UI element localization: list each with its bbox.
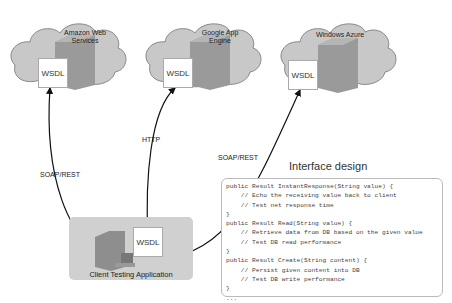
code-line: } [226, 247, 438, 256]
code-line: ... [226, 294, 438, 303]
wsdl-document-azure: WSDL [288, 60, 318, 90]
wsdl-document-google: WSDL [163, 58, 193, 88]
code-line: public Result Read(String value) { [226, 219, 438, 228]
wsdl-label: WSDL [291, 71, 314, 80]
wsdl-label: WSDL [41, 69, 64, 78]
code-line: // Test DB read performance [226, 238, 438, 247]
cloud-label-line: Services [60, 37, 110, 45]
interface-code-block: public Result InstantResponse(String val… [221, 178, 443, 297]
code-line: } [226, 210, 438, 219]
wsdl-label: WSDL [136, 238, 159, 247]
cloud-label-line: Engine [195, 37, 245, 45]
connection-google [147, 88, 175, 238]
cloud-label-azure: Windows Azure [310, 31, 370, 39]
cloud-label-line: Amazon Web [60, 29, 110, 37]
wsdl-document-amazon: WSDL [38, 58, 68, 88]
code-line: } [226, 284, 438, 293]
connection-label-azure: SOAP/REST [218, 154, 258, 161]
wsdl-label: WSDL [166, 69, 189, 78]
code-line: public Result Create(String content) { [226, 256, 438, 265]
cloud-label-line: Google App [195, 29, 245, 37]
code-line: // Echo the receiving value back to clie… [226, 191, 438, 200]
cloud-label-google: Google App Engine [195, 29, 245, 45]
code-line: public Result InstantResponse(String val… [226, 182, 438, 191]
code-line: // Test net response time [226, 201, 438, 210]
cloud-label-line: Windows Azure [310, 31, 370, 39]
interface-title: Interface design [289, 160, 367, 172]
server-icon [318, 38, 358, 93]
cloud-label-amazon: Amazon Web Services [60, 29, 110, 45]
code-line: // Persist given content into DB [226, 266, 438, 275]
connection-label-google: HTTP [142, 136, 160, 143]
code-line: // Test DB write performance [226, 275, 438, 284]
code-line: // Retrieve data from DB based on the gi… [226, 228, 438, 237]
wsdl-document-client: WSDL [133, 227, 163, 257]
connection-label-amazon: SOAP/REST [40, 171, 80, 178]
client-label: Client Testing Application [69, 270, 193, 279]
